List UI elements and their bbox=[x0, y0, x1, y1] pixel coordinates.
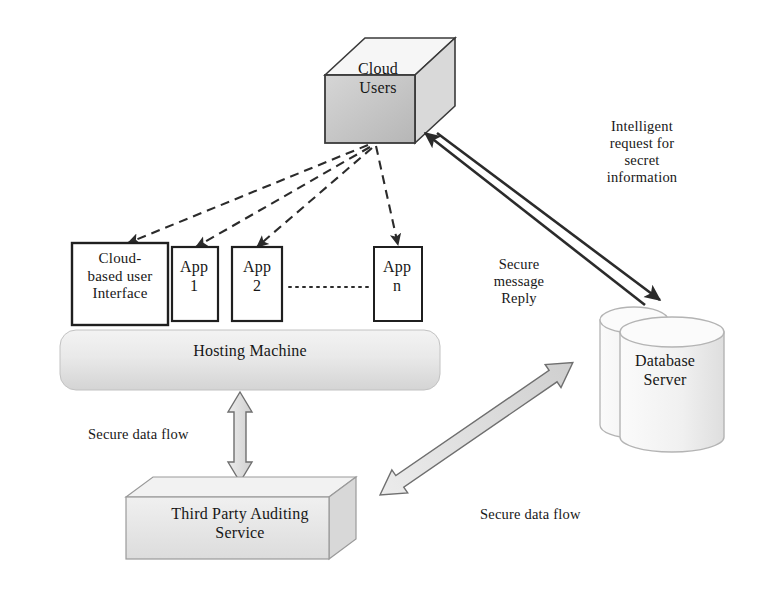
tpa-box-top bbox=[126, 477, 356, 497]
cloud-ui-label: Cloud- based user Interface bbox=[72, 250, 168, 303]
app2-label: App 2 bbox=[233, 258, 281, 296]
secure-data-flow-left-label: Secure data flow bbox=[88, 426, 226, 443]
diagram-canvas: Cloud Users Cloud- based user Interface … bbox=[0, 0, 782, 601]
database-server-label: Database Server bbox=[610, 352, 720, 390]
edge-users-to-app2 bbox=[257, 148, 372, 247]
edge-users-to-cloud-ui bbox=[128, 145, 368, 243]
edge-users-to-appn bbox=[376, 146, 398, 245]
database-front-body bbox=[620, 332, 724, 452]
third-party-auditing-label: Third Party Auditing Service bbox=[130, 505, 350, 543]
intelligent-request-label: Intelligent request for secret informati… bbox=[578, 118, 706, 186]
secure-data-flow-right-label: Secure data flow bbox=[480, 506, 640, 523]
appn-label: App n bbox=[374, 258, 420, 296]
app1-label: App 1 bbox=[172, 258, 216, 296]
users-to-apps-edges bbox=[128, 145, 398, 247]
hosting-machine-label: Hosting Machine bbox=[60, 342, 440, 361]
hosting-tpa-block-arrow bbox=[228, 392, 252, 482]
secure-message-reply-label: Secure message Reply bbox=[473, 256, 565, 307]
database-front-top bbox=[620, 317, 724, 347]
cloud-users-label: Cloud Users bbox=[330, 60, 426, 98]
edge-users-to-app1 bbox=[196, 147, 370, 247]
